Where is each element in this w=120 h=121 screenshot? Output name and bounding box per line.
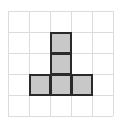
shaded-cell — [71, 74, 93, 96]
shaded-cell — [50, 32, 72, 54]
grid-diagram — [0, 0, 120, 121]
grid-line-vertical — [8, 11, 9, 116]
grid-line-vertical — [113, 11, 114, 116]
shaded-cell — [29, 74, 51, 96]
shaded-cell — [50, 53, 72, 75]
shaded-cell — [50, 74, 72, 96]
grid-line-horizontal — [8, 11, 113, 12]
grid-line-vertical — [29, 11, 30, 116]
grid-line-vertical — [92, 11, 93, 116]
grid-line-horizontal — [8, 116, 113, 117]
